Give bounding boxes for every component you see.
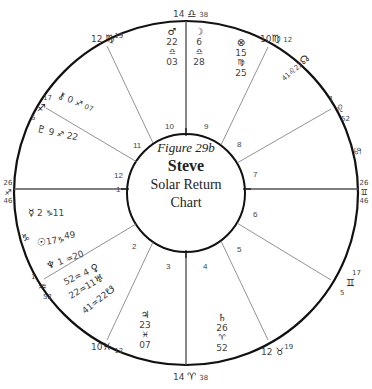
chart-subtitle-1: Solar Return bbox=[128, 176, 244, 194]
capricorn-icon: ♑ bbox=[46, 209, 53, 218]
cusp-label-left-lower: 1 ♒ 52 bbox=[31, 272, 52, 302]
house-number-6: 6 bbox=[253, 210, 257, 219]
leo-icon: ♌ bbox=[335, 103, 344, 114]
sagittarius-icon: ♐ bbox=[56, 129, 65, 139]
cusp-label-right-lower: 17 ♊ 5 bbox=[332, 268, 361, 298]
cusp-label-dsc: 26 ♊ 46 bbox=[357, 179, 371, 206]
house-number-4: 4 bbox=[203, 262, 207, 271]
moon-icon: ☽ bbox=[191, 27, 207, 37]
sagittarius-icon: ♐ bbox=[37, 102, 46, 113]
cusp-label-bottom-left: 10♓ 12 bbox=[91, 342, 123, 356]
capricorn-icon: ♑ bbox=[21, 232, 30, 243]
cusp-label-intercepted-cancer: ♋ bbox=[352, 147, 362, 156]
chart-name: Steve bbox=[128, 156, 244, 176]
part-of-fortune: ⊗ 15 ♍ 25 bbox=[233, 38, 249, 78]
libra-icon: ♎ bbox=[187, 8, 196, 19]
aries-icon: ♈ bbox=[187, 371, 196, 382]
house-number-7: 7 bbox=[253, 170, 257, 179]
libra-icon: ♎ bbox=[191, 47, 207, 57]
cusp-label-left-upper: 17 ♐ 5 bbox=[31, 93, 52, 123]
pluto-icon: ♇ bbox=[36, 123, 47, 136]
planet-moon: ☽ 6 ♎ 28 bbox=[191, 27, 207, 67]
chart-title-block: Figure 29b Steve Solar Return Chart bbox=[128, 140, 244, 212]
virgo-icon: ♍ bbox=[233, 58, 249, 68]
figure-caption: Figure 29b bbox=[128, 140, 244, 156]
cusp-label-right-upper: 1 ♌ 52 bbox=[329, 94, 350, 124]
house-number-2: 2 bbox=[132, 242, 136, 251]
planet-saturn: ♄ 26 ♈ 52 bbox=[214, 313, 230, 353]
mars-icon: ♂ bbox=[163, 27, 181, 37]
aries-icon: ♈ bbox=[214, 333, 230, 343]
house-number-5: 5 bbox=[237, 245, 241, 254]
cusp-label-asc: 26 ♐ 46 bbox=[0, 179, 16, 206]
gemini-icon: ♊ bbox=[357, 188, 371, 197]
house-number-9: 9 bbox=[204, 122, 208, 131]
planet-mars: ♂ 22 ♎ 03 bbox=[163, 27, 181, 67]
virgo-icon: ♍ bbox=[271, 33, 280, 44]
cusp-label-ic: 14 ♈ 38 bbox=[173, 372, 208, 383]
cusp-label-12: 12 ♍19 bbox=[91, 31, 123, 44]
gemini-icon: ♊ bbox=[346, 277, 355, 288]
taurus-icon: ♉ bbox=[275, 346, 284, 357]
cancer-icon: ♋ bbox=[352, 147, 363, 156]
cusp-label-mc: 14 ♎ 38 bbox=[173, 9, 208, 20]
planet-jupiter: ♃ 23 ♓ 07 bbox=[137, 310, 153, 350]
part-of-fortune-icon: ⊗ bbox=[233, 38, 249, 48]
planet-mercury: ☿ 2 ♑11 bbox=[28, 208, 64, 219]
saturn-icon: ♄ bbox=[214, 313, 230, 323]
libra-icon: ♎ bbox=[163, 47, 181, 57]
pisces-icon: ♓ bbox=[137, 330, 153, 340]
sagittarius-icon: ♐ bbox=[74, 98, 84, 109]
virgo-icon: ♍ bbox=[105, 33, 114, 44]
cusp-label-intercepted-capricorn: ♑ bbox=[21, 233, 30, 243]
house-number-1: 1 bbox=[116, 185, 120, 194]
mercury-icon: ☿ bbox=[28, 207, 34, 218]
house-number-3: 3 bbox=[166, 262, 170, 271]
house-number-12: 12 bbox=[114, 171, 123, 180]
jupiter-icon: ♃ bbox=[137, 310, 153, 320]
house-number-10: 10 bbox=[165, 122, 174, 131]
chart-subtitle-2: Chart bbox=[128, 194, 244, 212]
sagittarius-icon: ♐ bbox=[0, 188, 16, 197]
cusp-label-bottom-right: 12 ♉19 bbox=[261, 342, 293, 357]
aquarius-icon: ♒ bbox=[73, 271, 83, 282]
cusp-label-11: 10♍ 12 bbox=[260, 34, 292, 45]
pisces-icon: ♓ bbox=[102, 341, 111, 352]
aquarius-icon: ♒ bbox=[38, 281, 47, 292]
